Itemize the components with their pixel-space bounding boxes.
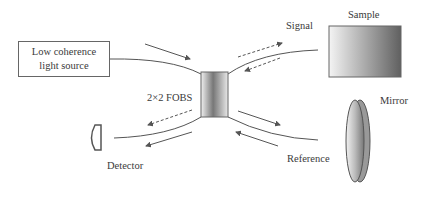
- detector-label: Detector: [107, 161, 143, 172]
- arrow-signal-back-dashed: [245, 58, 280, 71]
- light-source-label-line2: light source: [39, 59, 88, 73]
- mirror-label: Mirror: [380, 96, 408, 107]
- fiber-source: [110, 59, 201, 74]
- fobs-coupler: [201, 72, 228, 117]
- arrow-detector-dashed: [148, 110, 192, 125]
- fiber-reference: [228, 117, 318, 140]
- detector-shape: [92, 125, 102, 150]
- fiber-detector: [114, 117, 201, 138]
- light-source-box: Low coherence light source: [18, 41, 110, 77]
- sample-block: [329, 26, 401, 77]
- arrow-reference-out: [238, 111, 280, 125]
- fobs-label: 2×2 FOBS: [147, 93, 192, 104]
- mirror-shape: [346, 100, 370, 182]
- fiber-signal: [228, 50, 318, 74]
- diagram-canvas: [0, 0, 422, 199]
- signal-label: Signal: [286, 21, 313, 32]
- arrow-source-in: [145, 44, 190, 59]
- arrow-reference-back: [236, 132, 278, 146]
- sample-label: Sample: [348, 10, 380, 21]
- reference-label: Reference: [287, 154, 330, 165]
- light-source-label-line1: Low coherence: [32, 45, 96, 59]
